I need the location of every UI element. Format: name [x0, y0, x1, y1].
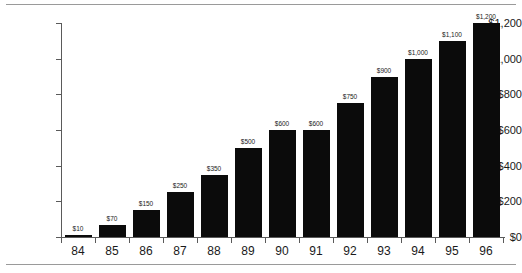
bar[interactable]: [473, 23, 500, 237]
x-axis-category-label: 87: [163, 245, 197, 257]
x-axis-category-label: 95: [435, 245, 469, 257]
bar[interactable]: [405, 59, 432, 237]
x-axis-tick: [129, 237, 130, 243]
bar[interactable]: [65, 235, 92, 237]
y-axis-tick: [56, 23, 62, 24]
bar[interactable]: [337, 103, 364, 237]
bar-value-label: $70: [90, 216, 134, 223]
bar[interactable]: [167, 192, 194, 237]
x-axis-category-label: 94: [401, 245, 435, 257]
x-axis-tick: [435, 237, 436, 243]
y-axis-tick: [56, 130, 62, 131]
bar-value-label: $1,200: [464, 14, 508, 21]
bar[interactable]: [133, 210, 160, 237]
chart-figure: $0$200$400$600$800$1,000$1,200 848586878…: [0, 0, 522, 273]
x-axis-category-label: 92: [333, 245, 367, 257]
bar[interactable]: [201, 175, 228, 237]
y-axis-tick: [56, 59, 62, 60]
x-axis-tick: [367, 237, 368, 243]
x-axis-category-label: 85: [95, 245, 129, 257]
x-axis-category-label: 86: [129, 245, 163, 257]
bar[interactable]: [371, 77, 398, 238]
x-axis-category-label: 84: [61, 245, 95, 257]
y-axis-tick: [56, 166, 62, 167]
x-axis-tick: [265, 237, 266, 243]
x-axis-category-label: 93: [367, 245, 401, 257]
x-axis-tick: [197, 237, 198, 243]
bar-value-label: $150: [124, 201, 168, 208]
x-axis-tick: [61, 237, 62, 243]
x-axis-tick: [95, 237, 96, 243]
x-axis-category-label: 88: [197, 245, 231, 257]
bar[interactable]: [235, 148, 262, 237]
bar-value-label: $1,100: [430, 32, 474, 39]
bar[interactable]: [99, 225, 126, 237]
y-axis-tick: [56, 201, 62, 202]
bar[interactable]: [439, 41, 466, 237]
x-axis-tick: [469, 237, 470, 243]
bar[interactable]: [303, 130, 330, 237]
x-axis-category-label: 96: [469, 245, 503, 257]
bar-chart-plot-area: $0$200$400$600$800$1,000$1,200 848586878…: [0, 0, 522, 273]
x-axis-tick: [231, 237, 232, 243]
bar[interactable]: [269, 130, 296, 237]
bar-value-label: $600: [294, 121, 338, 128]
bar-value-label: $250: [158, 183, 202, 190]
x-axis-tick: [401, 237, 402, 243]
x-axis-line: [61, 237, 505, 238]
x-axis-tick: [299, 237, 300, 243]
x-axis-category-label: 89: [231, 245, 265, 257]
bar-value-label: $750: [328, 94, 372, 101]
x-axis-category-label: 90: [265, 245, 299, 257]
bar-value-label: $500: [226, 139, 270, 146]
x-axis-tick: [503, 237, 504, 243]
bar-value-label: $350: [192, 166, 236, 173]
bar-value-label: $1,000: [396, 50, 440, 57]
x-axis-tick: [163, 237, 164, 243]
bar-value-label: $900: [362, 68, 406, 75]
x-axis-tick: [333, 237, 334, 243]
x-axis-category-label: 91: [299, 245, 333, 257]
bar-value-label: $10: [56, 226, 100, 233]
y-axis-tick: [56, 94, 62, 95]
